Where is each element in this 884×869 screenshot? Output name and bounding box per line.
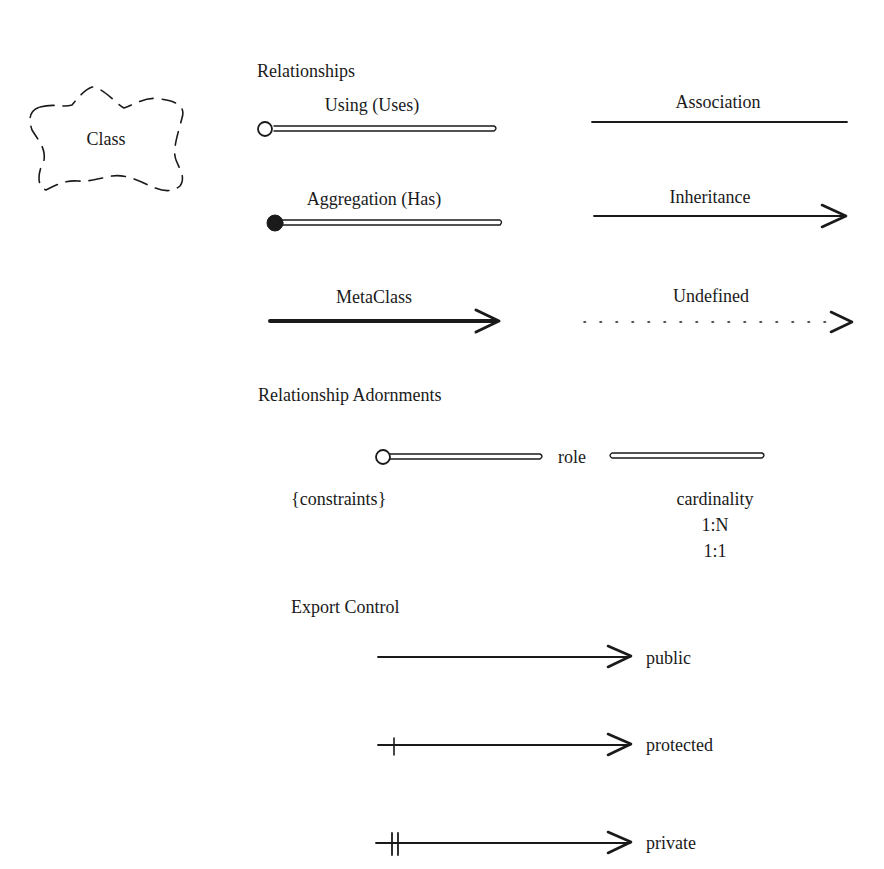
class-label: Class [86,130,125,148]
metaclass-relationship-icon [270,310,499,332]
constraints-label: {constraints} [291,490,386,508]
export-public-label: public [646,649,691,667]
export-private-icon [376,832,631,855]
relationships-heading: Relationships [257,62,355,80]
adornments-heading: Relationship Adornments [258,386,442,404]
aggregation-relationship-icon [267,215,502,231]
metaclass-label: MetaClass [336,288,412,306]
export-private-label: private [646,834,696,852]
export-protected-icon [378,734,631,755]
export-protected-label: protected [646,736,713,754]
cardinality-one-to-one: 1:1 [703,542,726,560]
export-public-icon [378,646,631,667]
association-label: Association [676,93,761,111]
undefined-label: Undefined [673,287,749,305]
cardinality-one-to-many: 1:N [702,516,729,534]
inheritance-label: Inheritance [670,188,751,206]
cardinality-label: cardinality [677,490,754,508]
role-label: role [558,448,586,466]
diagram-canvas [0,0,884,869]
inheritance-relationship-icon [594,205,846,227]
using-relationship-icon [258,122,496,136]
using-label: Using (Uses) [325,96,420,114]
export-control-heading: Export Control [291,598,400,616]
aggregation-label: Aggregation (Has) [307,190,441,208]
undefined-relationship-icon [584,312,852,332]
